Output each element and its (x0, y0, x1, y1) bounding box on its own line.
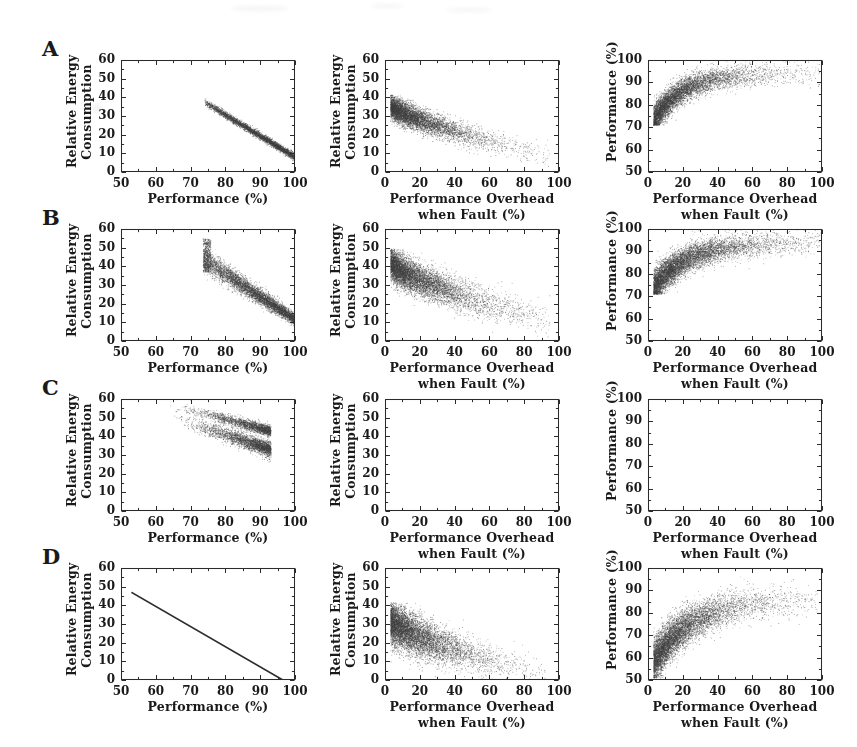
xtick-label: 60 (472, 684, 506, 698)
panel-A-right: 5060708090100020406080100Performance (%)… (648, 60, 822, 172)
plot-area-A-right (640, 52, 830, 180)
x-axis-title-line1: Performance Overhead (377, 530, 567, 546)
xtick-label: 80 (770, 515, 804, 529)
y-axis-title: Performance (%) (604, 231, 619, 331)
xtick-label: 60 (735, 684, 769, 698)
x-axis-title-line2: when Fault (%) (640, 207, 830, 223)
y-axis-title-line2: Consumption (344, 395, 359, 507)
x-axis-title: Performance Overheadwhen Fault (%) (377, 360, 567, 391)
y-axis-title-line1: Relative Energy (65, 225, 80, 337)
plot-area-C-right (640, 391, 830, 519)
x-axis-title: Performance (%) (113, 360, 303, 376)
xtick-label: 100 (278, 515, 312, 529)
plot-area-C-middle (377, 391, 567, 519)
xtick-label: 70 (174, 515, 208, 529)
y-axis-title: Performance (%) (604, 570, 619, 670)
plot-area-A-left (113, 52, 303, 180)
panel-D-left: 01020304050605060708090100Relative Energ… (121, 568, 295, 680)
xtick-label: 80 (770, 345, 804, 359)
x-axis-title-line1: Performance Overhead (377, 360, 567, 376)
xtick-label: 0 (368, 684, 402, 698)
y-axis-title-line1: Relative Energy (329, 395, 344, 507)
xtick-label: 60 (139, 345, 173, 359)
y-axis-title-line1: Relative Energy (65, 564, 80, 676)
xtick-label: 20 (403, 684, 437, 698)
x-axis-title-line2: when Fault (%) (640, 376, 830, 392)
xtick-label: 20 (403, 515, 437, 529)
y-axis-title: Relative EnergyConsumption (65, 56, 95, 168)
y-axis-title: Relative EnergyConsumption (329, 395, 359, 507)
panel-C-middle: 0102030405060020406080100Relative Energy… (385, 399, 559, 511)
xtick-label: 100 (542, 345, 576, 359)
y-axis-title-line2: Consumption (344, 564, 359, 676)
xtick-label: 60 (735, 176, 769, 190)
xtick-label: 60 (735, 345, 769, 359)
xtick-label: 60 (139, 515, 173, 529)
x-axis-title-line1: Performance Overhead (377, 191, 567, 207)
x-axis-title-line1: Performance Overhead (377, 699, 567, 715)
x-axis-title: Performance Overheadwhen Fault (%) (377, 699, 567, 730)
xtick-label: 20 (403, 176, 437, 190)
xtick-label: 20 (666, 176, 700, 190)
scan-artifact (230, 6, 290, 11)
xtick-label: 50 (104, 345, 138, 359)
y-axis-title: Relative EnergyConsumption (329, 225, 359, 337)
xtick-label: 70 (174, 345, 208, 359)
xtick-label: 80 (208, 684, 242, 698)
y-axis-title-line2: Consumption (80, 56, 95, 168)
plot-area-C-left (113, 391, 303, 519)
row-label-D: D (42, 544, 60, 569)
panel-C-left: 01020304050605060708090100Relative Energ… (121, 399, 295, 511)
xtick-label: 100 (542, 515, 576, 529)
xtick-label: 0 (368, 515, 402, 529)
x-axis-title: Performance Overheadwhen Fault (%) (377, 530, 567, 561)
plot-area-B-left (113, 221, 303, 349)
xtick-label: 0 (368, 345, 402, 359)
xtick-label: 70 (174, 684, 208, 698)
x-axis-title: Performance (%) (113, 699, 303, 715)
xtick-label: 50 (104, 684, 138, 698)
xtick-label: 0 (631, 684, 665, 698)
row-label-B: B (42, 205, 60, 230)
xtick-label: 0 (631, 176, 665, 190)
x-axis-title: Performance Overheadwhen Fault (%) (640, 191, 830, 222)
plot-area-D-left (113, 560, 303, 688)
y-axis-title: Relative EnergyConsumption (65, 564, 95, 676)
xtick-label: 70 (174, 176, 208, 190)
panel-C-right: 5060708090100020406080100Performance (%)… (648, 399, 822, 511)
panel-B-right: 5060708090100020406080100Performance (%)… (648, 229, 822, 341)
y-axis-title-line2: Consumption (344, 56, 359, 168)
x-axis-title-line1: Performance Overhead (640, 360, 830, 376)
xtick-label: 100 (278, 684, 312, 698)
xtick-label: 90 (243, 176, 277, 190)
y-axis-title-line2: Consumption (80, 395, 95, 507)
y-axis-title: Relative EnergyConsumption (329, 56, 359, 168)
x-axis-title-line1: Performance Overhead (640, 530, 830, 546)
xtick-label: 90 (243, 345, 277, 359)
xtick-label: 80 (208, 515, 242, 529)
y-axis-title-line1: Relative Energy (329, 225, 344, 337)
xtick-label: 100 (805, 515, 839, 529)
xtick-label: 80 (208, 345, 242, 359)
plot-area-A-middle (377, 52, 567, 180)
xtick-label: 100 (542, 176, 576, 190)
xtick-label: 80 (770, 684, 804, 698)
xtick-label: 80 (208, 176, 242, 190)
y-axis-title: Relative EnergyConsumption (329, 564, 359, 676)
xtick-label: 40 (438, 684, 472, 698)
xtick-label: 50 (104, 515, 138, 529)
xtick-label: 100 (278, 345, 312, 359)
xtick-label: 60 (139, 684, 173, 698)
xtick-label: 100 (278, 176, 312, 190)
x-axis-title-line2: when Fault (%) (377, 207, 567, 223)
x-axis-title-line1: Performance Overhead (640, 699, 830, 715)
row-label-C: C (42, 375, 59, 400)
panel-B-left: 01020304050605060708090100Relative Energ… (121, 229, 295, 341)
scan-artifact (445, 8, 493, 12)
xtick-label: 80 (507, 345, 541, 359)
row-label-A: A (42, 36, 58, 61)
x-axis-title: Performance Overheadwhen Fault (%) (640, 530, 830, 561)
figure-canvas: ABCD01020304050605060708090100Relative E… (0, 0, 857, 747)
xtick-label: 90 (243, 684, 277, 698)
xtick-label: 100 (805, 345, 839, 359)
